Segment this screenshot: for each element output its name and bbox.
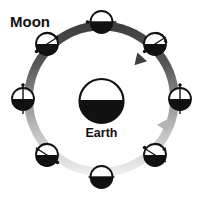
moon-axis-marker [143,146,146,149]
top-arrowhead [130,52,147,69]
moon-label: Moon [10,13,50,30]
moon-orbit-diagram: Earth [0,0,203,197]
moon-lower-left [36,143,60,166]
moon-lower-right [143,143,167,166]
moon-axis-marker [21,83,25,87]
moon-axis-marker [86,20,90,24]
moon-axis-marker [35,50,38,53]
diagram-canvas: Earth [0,0,203,197]
moon-axis-marker [143,50,146,53]
moon-upper-left [35,33,59,55]
moon-axis-marker [178,83,182,87]
moon-upper-right [143,33,168,56]
moon-axis-marker [56,161,59,164]
earth-label: Earth [86,126,118,140]
earth-group [80,79,124,123]
